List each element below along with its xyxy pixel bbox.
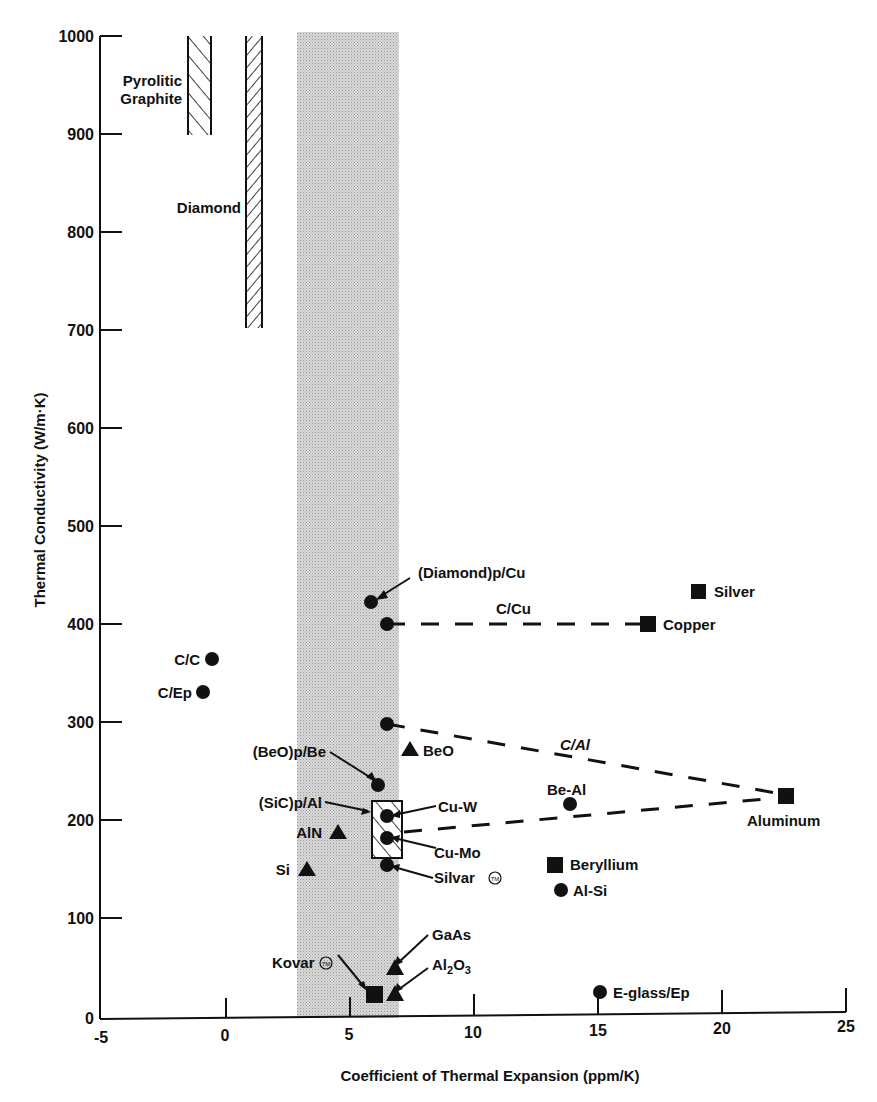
svg-text:C/Cu: C/Cu <box>496 600 531 617</box>
svg-text:Copper: Copper <box>663 616 716 633</box>
svg-text:-5: -5 <box>94 1029 108 1046</box>
svg-text:C/C: C/C <box>174 651 200 668</box>
svg-text:Cu-Mo: Cu-Mo <box>434 844 481 861</box>
svg-text:Cu-W: Cu-W <box>438 798 478 815</box>
svg-text:10: 10 <box>464 1024 482 1041</box>
x-tick-labels: -5 0 5 10 15 20 25 <box>94 1018 855 1046</box>
svg-text:Silver: Silver <box>714 583 755 600</box>
svg-text:100: 100 <box>67 910 94 927</box>
svg-text:C/Ep: C/Ep <box>158 684 192 701</box>
label-diamond: Diamond <box>177 199 241 216</box>
svg-text:Be-Al: Be-Al <box>547 781 586 798</box>
svg-text:Kovar: Kovar <box>272 954 315 971</box>
svg-text:Si: Si <box>276 861 290 878</box>
svg-text:20: 20 <box>713 1020 731 1037</box>
svg-text:1000: 1000 <box>58 28 94 45</box>
point-beo <box>401 741 419 756</box>
svg-text:500: 500 <box>67 518 94 535</box>
point-be-al <box>563 797 577 811</box>
point-kovar <box>366 986 383 1003</box>
label-pyrolitic: Pyrolitic <box>123 72 182 89</box>
svg-text:C/Al: C/Al <box>560 736 591 753</box>
svg-text:800: 800 <box>67 224 94 241</box>
diamond-bar <box>246 36 262 328</box>
point-eglass-ep <box>593 985 607 999</box>
point-cu-w <box>380 809 394 823</box>
svg-text:TM: TM <box>322 961 331 967</box>
svg-text:E-glass/Ep: E-glass/Ep <box>613 984 690 1001</box>
svg-text:Beryllium: Beryllium <box>570 856 638 873</box>
point-aluminum <box>778 788 794 804</box>
svg-text:25: 25 <box>837 1018 855 1035</box>
svg-text:Aluminum: Aluminum <box>747 812 820 829</box>
point-labels: (Diamond)p/Cu C/Cu Silver Copper C/C C/E… <box>158 564 821 1001</box>
svg-text:GaAs: GaAs <box>432 926 471 943</box>
point-c-al <box>380 717 394 731</box>
svg-text:700: 700 <box>67 322 94 339</box>
svg-text:AlN: AlN <box>296 824 322 841</box>
svg-text:Silvar: Silvar <box>434 869 475 886</box>
point-beo-be <box>371 778 385 792</box>
label-graphite: Graphite <box>120 90 182 107</box>
svg-text:BeO: BeO <box>423 742 454 759</box>
point-c-c <box>205 652 219 666</box>
point-c-cu <box>380 617 394 631</box>
svg-text:900: 900 <box>67 126 94 143</box>
x-axis <box>100 988 846 1019</box>
svg-text:0: 0 <box>85 1010 94 1027</box>
y-tick-labels: 1000 900 800 700 600 500 400 300 200 100… <box>58 28 94 1027</box>
x-axis-label: Coefficient of Thermal Expansion (ppm/K) <box>340 1067 639 1084</box>
svg-text:(Diamond)p/Cu: (Diamond)p/Cu <box>418 564 525 581</box>
svg-text:(BeO)p/Be: (BeO)p/Be <box>253 743 326 760</box>
point-al-si <box>554 883 568 897</box>
point-silvar <box>380 858 394 872</box>
svg-text:5: 5 <box>345 1026 354 1043</box>
svg-text:200: 200 <box>67 812 94 829</box>
pyrolitic-graphite-bar <box>188 36 211 135</box>
svg-text:Al-Si: Al-Si <box>573 882 607 899</box>
point-copper <box>640 616 656 632</box>
point-silver <box>691 584 706 599</box>
point-c-ep <box>196 685 210 699</box>
point-beryllium <box>547 857 563 873</box>
svg-text:TM: TM <box>491 876 500 882</box>
point-diamond-cu <box>364 595 378 609</box>
chart: 1000 900 800 700 600 500 400 300 200 100… <box>0 0 877 1102</box>
svg-text:Al2O3: Al2O3 <box>432 956 471 976</box>
svg-text:400: 400 <box>67 616 94 633</box>
svg-text:300: 300 <box>67 714 94 731</box>
svg-text:(SiC)p/Al: (SiC)p/Al <box>259 794 322 811</box>
y-axis-label: Thermal Conductivity (W/m·K) <box>31 392 48 607</box>
svg-text:600: 600 <box>67 420 94 437</box>
circle-markers <box>196 595 607 999</box>
y-axis <box>100 36 122 1019</box>
svg-text:15: 15 <box>589 1022 607 1039</box>
point-cu-mo <box>380 831 394 845</box>
svg-text:0: 0 <box>221 1027 230 1044</box>
